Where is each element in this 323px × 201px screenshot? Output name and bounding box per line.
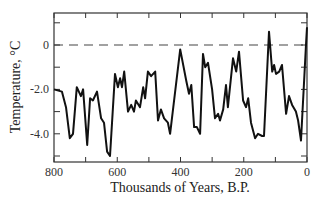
temperature-chart: 80060040020000-2.0-4.0 Thousands of Year…	[0, 0, 323, 201]
x-tick-label: 600	[108, 165, 126, 179]
y-axis-title: Temperature, °C	[8, 41, 23, 133]
plot-area	[54, 13, 307, 162]
y-tick-label: -4.0	[30, 127, 49, 141]
y-tick-label: 0	[43, 38, 49, 52]
x-tick-label: 200	[235, 165, 253, 179]
temperature-series-line	[54, 27, 307, 156]
x-tick-label: 0	[304, 165, 310, 179]
y-tick-label: -2.0	[30, 82, 49, 96]
x-tick-label: 400	[172, 165, 190, 179]
x-tick-label: 800	[45, 165, 63, 179]
x-axis-title: Thousands of Years, B.P.	[110, 180, 250, 195]
